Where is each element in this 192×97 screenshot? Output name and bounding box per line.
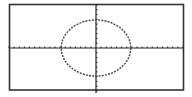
calculator-graph-screen	[0, 0, 192, 97]
graph-plot	[0, 0, 192, 97]
